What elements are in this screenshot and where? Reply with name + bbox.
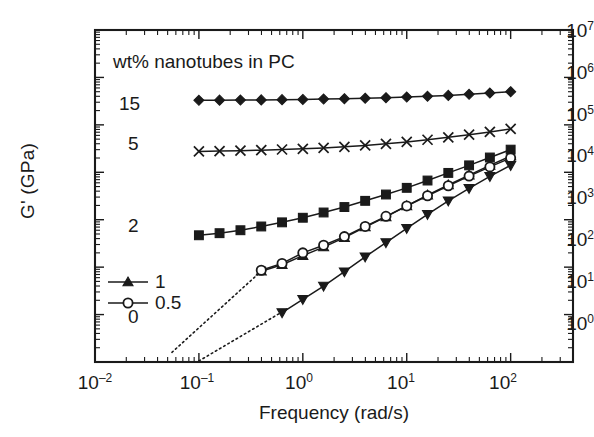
marker-open-circle [485,162,494,171]
marker-filled-triangle-down [360,253,370,262]
marker-filled-triangle-down [485,173,495,182]
marker-filled-square [319,208,328,217]
marker-filled-diamond [298,94,308,104]
marker-filled-diamond [360,93,370,103]
marker-filled-diamond [235,95,245,105]
series-0 [277,162,516,318]
marker-filled-diamond [256,95,266,105]
marker-open-circle [402,201,411,210]
plot-canvas [0,0,594,437]
marker-filled-diamond [339,94,349,104]
figure-container: G' (GPa) Frequency (rad/s) 107 106 105 1… [0,0,594,437]
marker-filled-triangle-down [443,197,453,206]
data-series-group [194,87,516,318]
marker-filled-square [257,222,266,231]
marker-open-circle [464,172,473,181]
marker-filled-diamond [423,91,433,101]
marker-filled-square [423,176,432,185]
marker-filled-square [465,161,474,170]
slope-2-guide-upper [172,266,267,352]
marker-filled-triangle-down [381,239,391,248]
marker-filled-diamond [464,89,474,99]
marker-filled-diamond [319,94,329,104]
plot-frame [95,30,573,362]
marker-open-circle [361,222,370,231]
series-line-0 [282,165,511,312]
series-15 [194,87,516,106]
marker-filled-diamond [402,92,412,102]
series-5 [194,124,516,157]
series-line-15 [199,92,511,101]
marker-filled-diamond [215,95,225,105]
marker-filled-square [340,203,349,212]
marker-filled-diamond [443,90,453,100]
marker-filled-diamond [194,95,204,105]
marker-filled-square [382,190,391,199]
marker-filled-square [278,218,287,227]
marker-filled-diamond [506,87,516,97]
marker-open-circle [381,212,390,221]
series-line-2 [199,150,511,236]
marker-open-circle [444,181,453,190]
marker-filled-square [215,229,224,238]
marker-filled-square [236,226,245,235]
slope-2-guide-lower [199,309,287,361]
marker-filled-triangle-down [319,282,329,291]
series-2 [195,145,516,239]
axis-ticks [95,30,573,362]
marker-filled-diamond [485,88,495,98]
marker-open-circle [123,298,132,307]
series-line-5 [199,129,511,152]
marker-filled-triangle-down [298,296,308,305]
marker-filled-diamond [277,95,287,105]
marker-filled-triangle-down [402,225,412,234]
marker-filled-square [402,183,411,192]
marker-open-circle [319,241,328,250]
marker-filled-square [195,231,204,240]
marker-open-circle [257,266,266,275]
marker-open-circle [277,259,286,268]
reference-guide-lines [172,266,287,361]
marker-filled-triangle-down [464,185,474,194]
marker-filled-triangle-down [423,211,433,220]
marker-filled-square [298,213,307,222]
marker-open-circle [423,191,432,200]
marker-open-circle [340,232,349,241]
marker-filled-triangle-down [339,268,349,277]
legend-marker-group [108,277,148,308]
marker-open-circle [298,248,307,257]
marker-filled-diamond [381,93,391,103]
legend-key-0.5 [108,298,148,307]
legend-key-1 [108,277,148,286]
marker-filled-triangle-down [506,162,516,171]
marker-filled-square [361,196,370,205]
marker-filled-square [444,169,453,178]
